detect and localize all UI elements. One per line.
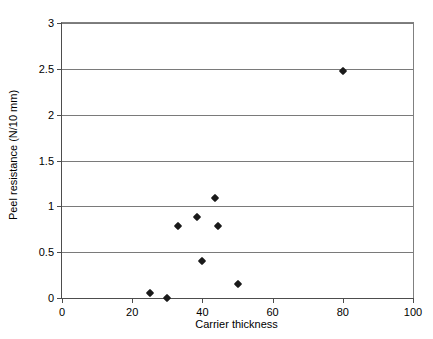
x-tick-label: 40 <box>196 306 208 318</box>
y-axis-label-text: Peel resistance (N/10 mm) <box>7 90 19 220</box>
data-point <box>146 289 154 297</box>
y-gridline <box>62 161 413 162</box>
y-tick-label: 2.5 <box>39 63 54 75</box>
data-point <box>163 294 171 302</box>
data-point <box>233 280 241 288</box>
y-gridline <box>62 206 413 207</box>
x-tick-mark <box>202 298 203 303</box>
scatter-chart-figure: Peel resistance (N/10 mm) 00.511.522.530… <box>0 0 433 339</box>
data-point <box>174 221 182 229</box>
data-point <box>210 194 218 202</box>
x-tick-mark <box>413 298 414 303</box>
y-axis-label: Peel resistance (N/10 mm) <box>2 0 24 310</box>
data-point <box>214 221 222 229</box>
x-tick-label: 100 <box>404 306 422 318</box>
y-gridline <box>62 23 413 24</box>
y-tick-label: 0.5 <box>39 246 54 258</box>
data-point <box>193 213 201 221</box>
x-tick-mark <box>273 298 274 303</box>
y-gridline <box>62 252 413 253</box>
data-point <box>339 66 347 74</box>
y-tick-mark <box>57 115 62 116</box>
plot-area: 00.511.522.53020406080100 <box>61 22 414 299</box>
x-tick-label: 0 <box>59 306 65 318</box>
y-tick-label: 1 <box>48 200 54 212</box>
y-tick-label: 2 <box>48 109 54 121</box>
x-tick-label: 80 <box>337 306 349 318</box>
y-tick-label: 0 <box>48 292 54 304</box>
y-tick-label: 3 <box>48 17 54 29</box>
y-tick-label: 1.5 <box>39 155 54 167</box>
y-tick-mark <box>57 161 62 162</box>
x-tick-label: 60 <box>266 306 278 318</box>
y-tick-mark <box>57 69 62 70</box>
x-tick-label: 20 <box>126 306 138 318</box>
x-tick-mark <box>62 298 63 303</box>
data-point <box>198 257 206 265</box>
y-tick-mark <box>57 206 62 207</box>
x-tick-mark <box>343 298 344 303</box>
y-tick-mark <box>57 23 62 24</box>
y-gridline <box>62 69 413 70</box>
x-axis-label: Carrier thickness <box>61 318 412 330</box>
y-gridline <box>62 115 413 116</box>
x-tick-mark <box>132 298 133 303</box>
y-tick-mark <box>57 252 62 253</box>
